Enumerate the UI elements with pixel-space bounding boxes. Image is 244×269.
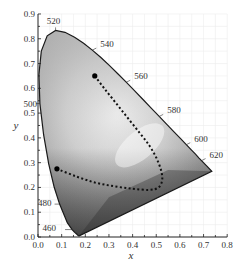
wavelength-label: 460: [43, 223, 57, 233]
wavelength-tick: [159, 114, 163, 116]
x-tick-label: 0.6: [174, 240, 186, 250]
x-tick-label: 0.3: [103, 240, 115, 250]
wavelength-label: 620: [210, 150, 224, 160]
trajectory-point-marker: [54, 166, 59, 171]
trajectory-point-marker: [92, 73, 97, 78]
y-tick-label: 0.0: [24, 232, 36, 242]
y-tick-label: 0.4: [24, 133, 36, 143]
y-tick-label: 0.8: [24, 34, 36, 44]
wavelength-tick: [186, 143, 190, 145]
wavelength-label: 500: [23, 99, 37, 109]
x-tick-label: 0.1: [56, 240, 67, 250]
y-tick-label: 0.2: [24, 182, 35, 192]
y-tick-label: 0.9: [24, 9, 36, 19]
y-axis-title: y: [13, 119, 19, 131]
wavelength-label: 520: [47, 16, 61, 26]
x-tick-label: 0.5: [151, 240, 163, 250]
wavelength-label: 600: [194, 134, 208, 144]
y-tick-label: 0.5: [24, 108, 36, 118]
x-axis-title: x: [128, 249, 134, 261]
chromaticity-chart: 460480500520540560580600620 0.00.10.20.3…: [0, 0, 244, 269]
y-tick-label: 0.6: [24, 83, 36, 93]
wavelength-label: 480: [38, 198, 52, 208]
x-tick-label: 0.8: [222, 240, 234, 250]
y-tick-label: 0.7: [24, 59, 36, 69]
y-tick-label: 0.3: [24, 158, 36, 168]
wavelength-tick: [92, 48, 96, 50]
y-tick-label: 0.1: [24, 207, 35, 217]
wavelength-label: 560: [134, 71, 148, 81]
x-tick-label: 0.2: [80, 240, 91, 250]
x-tick-label: 0.7: [198, 240, 210, 250]
wavelength-label: 580: [167, 105, 181, 115]
wavelength-label: 540: [100, 39, 114, 49]
wavelength-tick: [126, 80, 130, 82]
